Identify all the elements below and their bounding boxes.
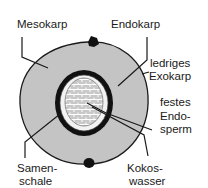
label-exokarp-line1: ledriges [150,57,190,69]
label-samenschale-line2: schale [19,175,52,187]
label-endosperm-line1: festes [160,96,191,108]
label-endosperm-line2: Endo- [160,110,191,122]
bottom-pore-icon [84,158,95,168]
endosperm-region [65,78,103,126]
label-samenschale-line1: Samen- [17,162,57,174]
label-kokoswasser-line1: Kokos- [127,162,163,174]
label-kokoswasser-line2: wasser [129,175,165,187]
label-mesokarp: Mesokarp [17,18,68,30]
label-endosperm-line3: sperm [160,123,192,135]
label-endokarp: Endokarp [111,18,160,30]
label-exokarp-line2: Exokarp [149,70,191,82]
